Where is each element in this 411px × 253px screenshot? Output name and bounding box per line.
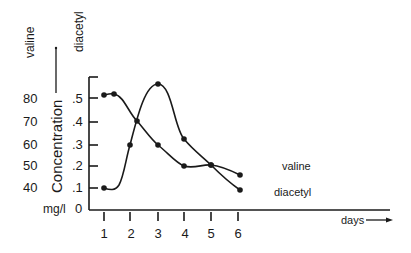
- valine-tick: 80: [23, 91, 37, 106]
- x-axis-label: days: [341, 214, 365, 226]
- diacetyl-curve: [104, 84, 240, 190]
- y-axis-unit: mg/l: [43, 202, 66, 216]
- diacetyl-tick: .3: [72, 137, 83, 152]
- x-tick: 1: [100, 226, 107, 241]
- x-tick: 6: [234, 226, 241, 241]
- diacetyl-axis-title: diacetyl: [72, 11, 86, 52]
- chart: valine diacetyl Concentration mg/l 80 70…: [0, 0, 411, 253]
- x-tick: 3: [154, 226, 161, 241]
- valine-ticks: 80 70 60 50 40: [23, 91, 37, 195]
- valine-legend: valine: [282, 160, 311, 172]
- diacetyl-tick: .2: [72, 158, 83, 173]
- x-tick: 4: [181, 226, 188, 241]
- x-ticks: 1 2 3 4 5 6: [100, 226, 241, 241]
- valine-tick: 70: [23, 114, 37, 129]
- diacetyl-tick: .4: [72, 114, 83, 129]
- diacetyl-tick: 0: [75, 201, 82, 216]
- valine-axis-title: valine: [23, 26, 37, 58]
- diacetyl-tick: .1: [72, 180, 83, 195]
- axis-title-divider-cap: [55, 47, 57, 49]
- diacetyl-tick: .5: [72, 91, 83, 106]
- diacetyl-legend: diacetyl: [274, 186, 311, 198]
- days-arrow-head-icon: [386, 218, 393, 223]
- x-tick: 5: [207, 226, 214, 241]
- x-tick: 2: [127, 226, 134, 241]
- diacetyl-ticks: .5 .4 .3 .2 .1 0: [72, 91, 83, 216]
- y-axis: [89, 77, 98, 210]
- valine-tick: 60: [23, 137, 37, 152]
- y-axis-label: Concentration: [48, 100, 65, 193]
- valine-tick: 50: [23, 158, 37, 173]
- valine-tick: 40: [23, 180, 37, 195]
